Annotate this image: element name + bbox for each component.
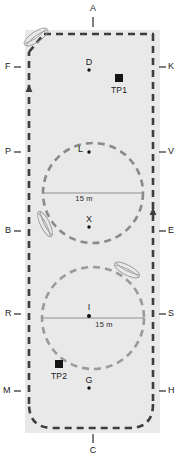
point-g-dot bbox=[87, 386, 90, 389]
edge-label-b: B bbox=[5, 226, 11, 235]
station-label-tp1: TP1 bbox=[111, 86, 127, 95]
edge-label-c: C bbox=[90, 446, 97, 455]
field-fill bbox=[25, 30, 160, 433]
edge-label-e: E bbox=[168, 226, 174, 235]
edge-label-f: F bbox=[5, 62, 11, 71]
diameter-label-upper: 15 m bbox=[75, 195, 92, 203]
diagram-canvas bbox=[0, 0, 179, 462]
point-l-dot bbox=[87, 150, 90, 153]
edge-label-r: R bbox=[5, 309, 12, 318]
point-label-x: X bbox=[86, 215, 92, 224]
station-tp2-square bbox=[55, 360, 63, 368]
point-d-dot bbox=[87, 68, 90, 71]
point-x-dot bbox=[87, 225, 90, 228]
station-tp1-square bbox=[115, 74, 123, 82]
edge-label-v: V bbox=[168, 147, 174, 156]
point-label-i: I bbox=[88, 303, 91, 312]
edge-label-h: H bbox=[168, 386, 175, 395]
edge-ticks-right bbox=[159, 67, 166, 391]
edge-label-k: K bbox=[168, 62, 174, 71]
point-label-g: G bbox=[85, 376, 92, 385]
point-label-l: L bbox=[78, 145, 83, 154]
edge-label-m: M bbox=[3, 386, 11, 395]
diameter-label-lower: 15 m bbox=[95, 321, 112, 329]
edge-ticks-left bbox=[14, 67, 21, 391]
point-i-dot bbox=[87, 314, 91, 318]
edge-label-a: A bbox=[90, 4, 96, 13]
point-label-d: D bbox=[86, 58, 93, 67]
station-label-tp2: TP2 bbox=[51, 372, 67, 381]
edge-label-s: S bbox=[168, 309, 174, 318]
edge-label-p: P bbox=[5, 147, 11, 156]
